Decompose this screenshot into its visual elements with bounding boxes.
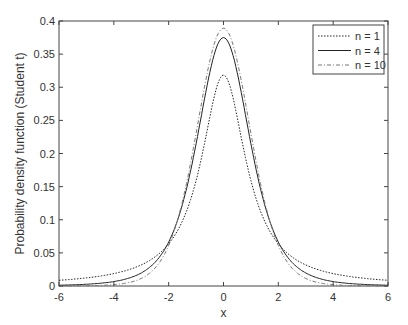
y-tick-label: 0 [49, 280, 55, 292]
chart: -6-4-2024600.050.10.150.20.250.30.350.4x… [0, 0, 408, 325]
chart-svg: -6-4-2024600.050.10.150.20.250.30.350.4x… [0, 0, 408, 325]
y-tick-label: 0.15 [34, 181, 55, 193]
y-tick-label: 0.1 [40, 214, 55, 226]
x-tick-label: -6 [54, 291, 64, 303]
legend-label: n = 1 [355, 30, 380, 42]
x-tick-label: 6 [385, 291, 391, 303]
x-axis-label: x [221, 306, 227, 320]
x-tick-label: -4 [109, 291, 119, 303]
y-tick-label: 0.05 [34, 247, 55, 259]
x-tick-label: 2 [275, 291, 281, 303]
y-axis-label: Probability density function (Student t) [13, 52, 27, 254]
legend-label: n = 10 [355, 59, 386, 71]
x-tick-label: 4 [330, 291, 336, 303]
y-tick-label: 0.35 [34, 48, 55, 60]
x-tick-label: -2 [164, 291, 174, 303]
x-tick-label: 0 [220, 291, 226, 303]
y-tick-label: 0.2 [40, 148, 55, 160]
y-tick-label: 0.3 [40, 81, 55, 93]
legend-label: n = 4 [355, 45, 380, 57]
y-tick-label: 0.4 [40, 15, 55, 27]
y-tick-label: 0.25 [34, 114, 55, 126]
